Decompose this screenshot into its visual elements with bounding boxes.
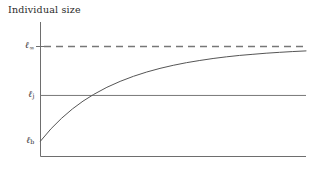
plot-area [0,0,316,196]
chart-figure: Individual size ℓ∞ ℓj ℓb [0,0,316,196]
growth-curve [41,51,307,141]
